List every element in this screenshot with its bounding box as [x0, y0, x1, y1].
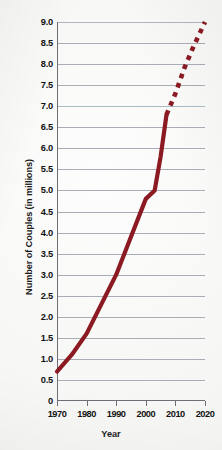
y-tick-label: 3.0: [19, 270, 53, 280]
y-tick-label: 2.0: [19, 312, 53, 322]
y-tick-label: 8.0: [19, 59, 53, 69]
y-tick-label: 1.5: [19, 333, 53, 343]
x-axis-title: Year: [0, 429, 222, 439]
y-axis-tick-labels: 9.08.58.07.57.06.56.05.55.04.54.03.53.02…: [19, 0, 53, 450]
y-tick-label: 2.5: [19, 291, 53, 301]
y-tick-label: 6.0: [19, 143, 53, 153]
x-tick-mark: [87, 401, 88, 406]
x-tick-label: 2020: [188, 409, 222, 419]
y-tick-label: 7.5: [19, 80, 53, 90]
y-tick-label: 0: [19, 396, 53, 406]
x-tick-mark: [205, 401, 206, 406]
line-chart: Number of Couples (in millions) 9.08.58.…: [0, 0, 222, 450]
y-tick-label: 7.0: [19, 101, 53, 111]
x-tick-mark: [57, 401, 58, 406]
y-tick-label: 1.0: [19, 354, 53, 364]
y-tick-label: 4.5: [19, 207, 53, 217]
y-tick-label: 0.5: [19, 375, 53, 385]
y-tick-label: 8.5: [19, 38, 53, 48]
x-tick-mark: [175, 401, 176, 406]
projected-line: [167, 22, 205, 115]
data-series-layer: [57, 22, 205, 401]
y-tick-label: 3.5: [19, 249, 53, 259]
y-tick-label: 9.0: [19, 17, 53, 27]
x-tick-mark: [146, 401, 147, 406]
x-tick-mark: [116, 401, 117, 406]
observed-line: [57, 115, 167, 372]
y-tick-label: 5.5: [19, 164, 53, 174]
y-tick-label: 6.5: [19, 122, 53, 132]
y-tick-label: 4.0: [19, 228, 53, 238]
y-tick-label: 5.0: [19, 185, 53, 195]
